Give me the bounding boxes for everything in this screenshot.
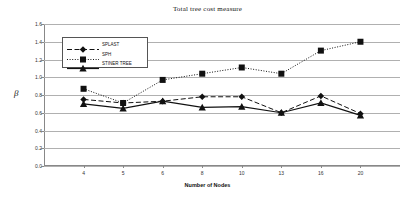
x-axis-tick-mark (281, 165, 282, 168)
x-axis-tick-mark (163, 165, 164, 168)
square-marker (357, 39, 363, 45)
x-axis-tick-mark (321, 165, 322, 168)
y-axis-tick-mark (41, 95, 44, 96)
legend-item-stiner-tree[interactable]: STINER TREE (66, 59, 146, 68)
legend-sample-icon (66, 59, 100, 68)
y-axis-tick-mark (41, 148, 44, 149)
square-marker (318, 48, 324, 54)
square-marker (81, 86, 87, 92)
diamond-marker (199, 94, 206, 101)
x-axis-tick-mark (202, 165, 203, 168)
legend-label: SPLAST (100, 42, 119, 47)
legend-item-sph[interactable]: SPH (66, 50, 146, 59)
x-axis-tick-mark (84, 165, 85, 168)
series-layer (0, 0, 415, 197)
y-axis-tick-mark (41, 166, 44, 167)
legend-sample-icon (66, 50, 100, 59)
square-marker (239, 64, 245, 70)
y-axis-tick-mark (41, 24, 44, 25)
y-axis-tick-mark (41, 60, 44, 61)
y-axis-tick-mark (41, 131, 44, 132)
legend-item-splast[interactable]: SPLAST (66, 40, 146, 49)
y-axis-tick-mark (41, 113, 44, 114)
square-marker (160, 77, 166, 83)
x-axis-tick-mark (360, 165, 361, 168)
diamond-marker (239, 94, 246, 101)
square-marker (199, 71, 205, 77)
legend-label: SPH (100, 52, 111, 57)
x-axis-tick-mark (242, 165, 243, 168)
legend-label: STINER TREE (100, 61, 132, 66)
triangle-marker (317, 99, 324, 106)
x-axis-tick-mark (123, 165, 124, 168)
chart-legend: SPLASTSPHSTINER TREE (62, 37, 148, 68)
square-marker (278, 71, 284, 77)
chart-container: Total tree cost measure β 0.00.20.40.60.… (0, 0, 415, 197)
y-axis-tick-mark (41, 77, 44, 78)
y-axis-tick-mark (41, 42, 44, 43)
diamond-marker (318, 93, 325, 100)
legend-sample-icon (66, 40, 100, 49)
